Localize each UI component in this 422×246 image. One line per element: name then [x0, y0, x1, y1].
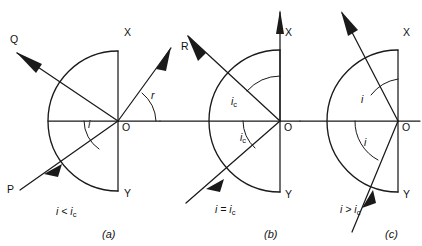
- panel-c-label-o: O: [402, 121, 410, 133]
- panel-a-reflected-arrowhead: [156, 47, 171, 71]
- panel-c-angle-arc-upper: [371, 79, 398, 95]
- panel-b-incident-arrowhead: [206, 179, 224, 192]
- panel-b-caption: (b): [264, 228, 278, 240]
- panel-b-label-o: O: [284, 121, 292, 133]
- panel-a-condition: i < ic: [56, 205, 77, 219]
- panel-a-incident-ray: [20, 121, 118, 190]
- panel-c-angle-arc-lower: [355, 121, 378, 160]
- panel-c-incident-arrowhead: [362, 190, 376, 208]
- panel-b-condition: i = ic: [215, 203, 236, 217]
- panel-c-caption: (c): [385, 228, 398, 240]
- panel-a-caption: (a): [102, 228, 116, 240]
- panel-c-reflected-arrowhead: [341, 11, 358, 36]
- panel-c-angle-label-upper: i: [361, 93, 364, 105]
- panel-a-refracted-arrowhead: [16, 52, 42, 73]
- panel-c-condition: i > ic: [340, 203, 361, 217]
- panel-b-angle-arc-upper: [247, 76, 280, 91]
- panel-c: X Y O i i i > ic (c): [300, 11, 420, 240]
- panel-a-label-x: X: [124, 26, 131, 38]
- figure-canvas: Q P X Y O i r R i < ic (a): [0, 0, 422, 246]
- panel-b-label-y: Y: [285, 188, 292, 200]
- optics-figure: Q P X Y O i r R i < ic (a): [0, 0, 422, 246]
- panel-b-angle-label-upper: ic: [231, 95, 237, 109]
- panel-a-ray-label-p: P: [7, 183, 14, 195]
- panel-a-angle-arc-i: [84, 121, 99, 149]
- panel-c-label-y: Y: [403, 188, 410, 200]
- panel-a-angle-label-i: i: [88, 118, 91, 130]
- panel-a-label-o: O: [122, 121, 130, 133]
- panel-a: Q P X Y O i r R i < ic (a): [7, 26, 189, 240]
- panel-c-angle-label-lower: i: [364, 136, 367, 148]
- panel-a-ray-label-r: R: [181, 40, 189, 52]
- panel-b-label-x: X: [285, 26, 292, 38]
- panel-a-ray-label-q: Q: [10, 33, 18, 45]
- panel-a-angle-label-r: r: [151, 89, 155, 101]
- panel-b-grazing-arrowhead: [276, 10, 284, 34]
- panel-c-label-x: X: [403, 26, 410, 38]
- panel-a-label-y: Y: [124, 187, 131, 199]
- panel-b-reflected-arrowhead: [187, 35, 206, 61]
